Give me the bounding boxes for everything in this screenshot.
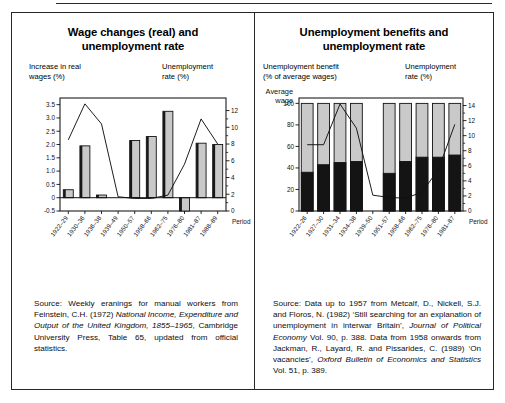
top-rule-divider: [56, 3, 492, 4]
y2-tick-label: 14: [468, 102, 476, 109]
stacked-bar-benefit: [301, 172, 313, 211]
left-chart-title-line1: Wage changes (real) and: [22, 25, 244, 39]
right-chart-axis-captions: Unemployment benefit (% of average wages…: [255, 62, 493, 88]
y2-tick-label: 0: [231, 207, 235, 214]
y-tick-label: 3.0: [46, 114, 55, 121]
y2-tick-label: 4: [468, 177, 472, 184]
stacked-bar-benefit: [383, 173, 395, 211]
figure-outer-frame: Wage changes (real) and unemployment rat…: [11, 12, 494, 390]
x-axis-period-label: Period: [469, 218, 488, 225]
y-tick-label: -0.5: [44, 207, 55, 214]
bar-shadow-edge: [63, 190, 65, 198]
stacked-bar-benefit: [400, 161, 412, 211]
left-chart-source-note: Source: Weekly eranings for manual worke…: [34, 298, 238, 354]
y2-tick-label: 4: [231, 174, 235, 181]
y2-tick-label: 2: [468, 192, 472, 199]
right-chart-title-line2: unemployment rate: [265, 39, 483, 53]
y2-tick-label: 10: [468, 132, 476, 139]
right-chart-plot: 100806040200141210864201922–261927–30193…: [255, 88, 494, 273]
right-chart-y2axis-caption-line2: rate (%): [405, 72, 456, 82]
y-tick-label: 1.0: [46, 167, 55, 174]
bar-shadow-edge: [180, 198, 182, 211]
right-source-italic-2: Oxford Bulletin of Economics and Statist…: [317, 355, 481, 364]
y-tick-label: 0: [290, 207, 294, 214]
left-chart-y2axis-caption: Unemployment rate (%): [162, 62, 213, 81]
y2-tick-label: 6: [468, 162, 472, 169]
stacked-bar-benefit: [318, 165, 330, 211]
bar-shadow-edge: [146, 137, 148, 198]
y-tick-label: 60: [287, 143, 295, 150]
left-chart-panel: Wage changes (real) and unemployment rat…: [12, 13, 254, 389]
y2-tick-label: 10: [231, 124, 239, 131]
right-chart-source-note: Source: Data up to 1957 from Metcalf, D.…: [273, 298, 481, 376]
y-tick-label: 20: [287, 186, 295, 193]
stacked-bar-benefit: [334, 163, 346, 211]
left-chart-title: Wage changes (real) and unemployment rat…: [12, 25, 254, 53]
left-chart-title-line2: unemployment rate: [22, 39, 244, 53]
y-tick-label: 40: [287, 164, 295, 171]
y-tick-label: 0: [51, 194, 55, 201]
y-tick-label: 2.5: [46, 128, 55, 135]
right-chart-title: Unemployment benefits and unemployment r…: [255, 25, 493, 53]
y-tick-label: 3.5: [46, 101, 55, 108]
left-chart-yaxis-caption-line1: Increase in real: [29, 62, 81, 72]
y2-tick-label: 12: [231, 107, 239, 114]
left-chart-yaxis-caption-line2: wages (%): [29, 72, 81, 82]
y2-tick-label: 8: [468, 147, 472, 154]
x-tick-label: 1988–89: [198, 214, 219, 238]
y-tick-label: 0.5: [46, 181, 55, 188]
bar-shadow-edge: [80, 146, 82, 198]
right-chart-panel: Unemployment benefits and unemployment r…: [254, 13, 493, 389]
left-chart-y2axis-caption-line1: Unemployment: [162, 62, 213, 72]
y-tick-label: 2.0: [46, 141, 55, 148]
y2-tick-label: 12: [468, 117, 476, 124]
right-chart-y2axis-caption: Unemployment rate (%): [405, 62, 456, 81]
right-chart-yaxis-caption: Unemployment benefit (% of average wages…: [263, 62, 339, 81]
average-wage-label-line1: Average: [266, 88, 293, 96]
x-tick-label: 1981–87: [435, 214, 456, 238]
bar-shadow-edge: [130, 141, 132, 198]
right-chart-title-line1: Unemployment benefits and: [265, 25, 483, 39]
left-chart-plot: 3.53.02.52.01.51.00.50-0.51210864201922–…: [12, 88, 254, 273]
average-wage-label-line2: wage: [274, 96, 293, 105]
bar-shadow-edge: [213, 145, 215, 198]
left-chart-yaxis-caption: Increase in real wages (%): [29, 62, 81, 81]
y-tick-label: 1.5: [46, 154, 55, 161]
stacked-bar-benefit: [432, 157, 444, 211]
stacked-bar-benefit: [449, 155, 461, 211]
left-chart-axis-captions: Increase in real wages (%) Unemployment …: [12, 62, 254, 88]
y2-tick-label: 8: [231, 140, 235, 147]
y2-tick-label: 0: [468, 207, 472, 214]
left-chart-y2axis-caption-line2: rate (%): [162, 72, 213, 82]
right-chart-y2axis-caption-line1: Unemployment: [405, 62, 456, 72]
stacked-bar-benefit: [416, 157, 428, 211]
figure-page: Wage changes (real) and unemployment rat…: [0, 0, 505, 403]
y2-tick-label: 6: [231, 157, 235, 164]
bar-shadow-edge: [163, 111, 165, 197]
bar-shadow-edge: [196, 143, 198, 198]
y2-tick-label: 2: [231, 191, 235, 198]
right-source-plain-3: Vol. 51, p. 389.: [273, 366, 327, 375]
x-axis-period-label: Period: [232, 218, 251, 225]
stacked-bar-benefit: [350, 161, 362, 211]
y-tick-label: 80: [287, 121, 295, 128]
right-chart-yaxis-caption-line2: (% of average wages): [263, 72, 339, 82]
right-chart-yaxis-caption-line1: Unemployment benefit: [263, 62, 339, 72]
